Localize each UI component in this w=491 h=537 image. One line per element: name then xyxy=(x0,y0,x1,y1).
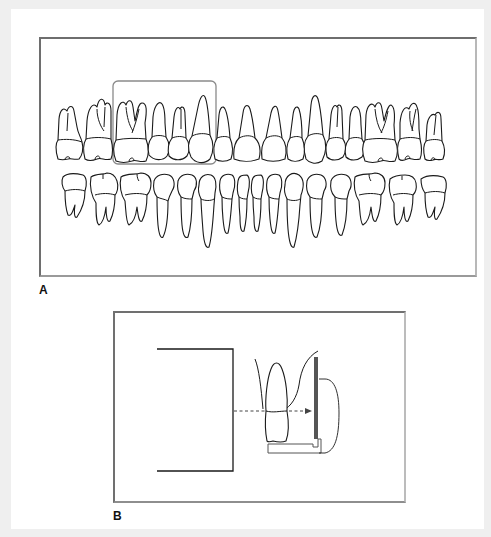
receptor-holder xyxy=(319,379,339,453)
receptor xyxy=(314,357,318,439)
figure-page: A B xyxy=(11,9,484,529)
upper-arch xyxy=(56,95,445,163)
panel-b-paralleling-technique xyxy=(113,311,406,503)
soft-tissue-line-left xyxy=(255,359,263,409)
panel-label-b: B xyxy=(113,509,122,523)
projection-illustration xyxy=(115,313,408,505)
dentition-illustration xyxy=(41,39,479,279)
position-indicating-device xyxy=(157,349,233,471)
panel-label-a: A xyxy=(39,283,48,297)
soft-tissue-line-right xyxy=(283,351,318,410)
panel-a-dentition xyxy=(39,37,477,277)
tooth xyxy=(265,363,288,442)
lower-arch xyxy=(62,173,446,247)
arrowhead-icon xyxy=(305,408,312,414)
